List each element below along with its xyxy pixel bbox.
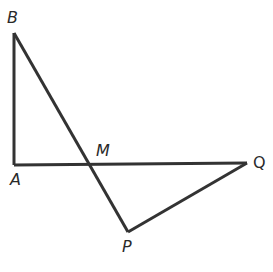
label-p: P xyxy=(122,239,132,255)
segment-aq xyxy=(14,163,247,165)
segment-pq xyxy=(128,163,247,232)
label-b: B xyxy=(7,10,18,26)
label-m: M xyxy=(96,143,110,159)
segment-bp xyxy=(14,33,128,232)
geometry-diagram: B A M Q P xyxy=(0,0,273,272)
label-q: Q xyxy=(253,155,266,171)
diagram-lines xyxy=(0,0,273,272)
label-a: A xyxy=(10,172,21,188)
